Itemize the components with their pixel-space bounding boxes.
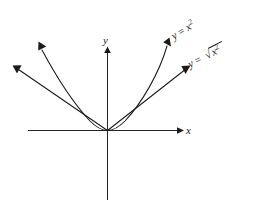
y-axis-arrowhead xyxy=(104,47,111,54)
x-axis-arrowhead xyxy=(177,127,184,134)
axes-group xyxy=(28,47,184,201)
absolute-value-left-arrowhead xyxy=(13,65,22,73)
absolute-value-left-branch xyxy=(19,70,108,131)
x-axis-label: x xyxy=(185,124,191,136)
y-axis-label: y xyxy=(102,34,108,46)
parabola-left-arrowhead xyxy=(38,42,46,51)
absolute-value-curve-group xyxy=(13,65,191,130)
absolute-value-label-group: y = √ x2 xyxy=(184,40,227,70)
math-figure: x y y = x2 y = √ x2 xyxy=(0,0,253,204)
svg-text:y = x2: y = x2 xyxy=(167,17,196,42)
parabola-path xyxy=(42,46,167,131)
parabola-right-arrowhead xyxy=(163,38,171,47)
absolute-value-right-branch xyxy=(108,71,185,131)
parabola-label-group: y = x2 xyxy=(167,17,196,42)
graph-canvas: x y y = x2 y = √ x2 xyxy=(0,0,253,204)
parabola-curve-group xyxy=(38,38,171,131)
